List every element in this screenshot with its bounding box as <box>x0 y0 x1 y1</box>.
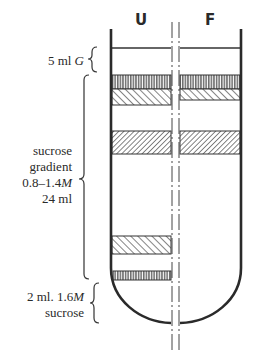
column-label-u: U <box>135 11 147 29</box>
label-gradient-line3: 0.8–1.4M <box>22 175 73 190</box>
label-gradient-line1: sucrose <box>33 143 72 158</box>
brace-gradient <box>79 75 89 279</box>
center-axis <box>172 22 179 352</box>
column-labels: U F <box>135 11 215 29</box>
label-cushion-line1: 2 ml. 1.6M <box>27 289 85 304</box>
centrifuge-tube-diagram: U F 5 ml G sucrose gradien <box>0 0 257 361</box>
labels: 5 ml G sucrose gradient 0.8–1.4M 24 ml 2… <box>22 53 85 320</box>
label-cushion-line2: sucrose <box>45 305 84 320</box>
label-gradient-line2: gradient <box>29 159 72 174</box>
brace-cushion <box>90 283 99 323</box>
f-band-3 <box>180 131 240 154</box>
u-band-3 <box>112 131 171 154</box>
u-band-4 <box>112 236 171 254</box>
braces <box>79 47 99 323</box>
bands-u <box>112 75 171 280</box>
label-gradient-line4: 24 ml <box>42 191 72 206</box>
f-band-1 <box>180 75 240 89</box>
label-top-layer: 5 ml G <box>48 53 85 68</box>
column-label-f: F <box>205 11 215 29</box>
u-band-1 <box>112 75 171 89</box>
u-band-5 <box>113 271 171 280</box>
bands-f <box>180 75 240 154</box>
u-band-2 <box>112 89 171 105</box>
brace-top-layer <box>88 47 97 72</box>
f-band-2 <box>180 89 240 100</box>
